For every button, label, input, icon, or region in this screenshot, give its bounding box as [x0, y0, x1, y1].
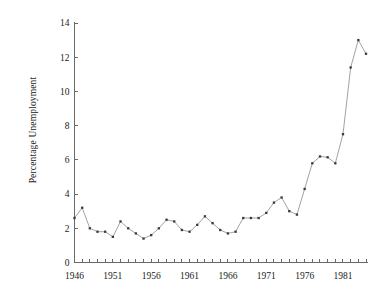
data-point-marker [158, 227, 160, 229]
data-point-marker [219, 229, 221, 231]
data-point-marker [173, 220, 175, 222]
y-tick-label: 12 [60, 53, 70, 63]
data-point-marker [150, 234, 152, 236]
series-line [75, 40, 367, 238]
data-series-group [73, 39, 367, 240]
data-point-marker [303, 188, 305, 190]
data-point-marker [104, 231, 106, 233]
data-point-marker [280, 196, 282, 198]
x-tick-label: 1956 [142, 271, 161, 281]
data-point-marker [334, 162, 336, 164]
x-tick-label: 1951 [103, 271, 122, 281]
data-point-marker [227, 232, 229, 234]
data-point-marker [119, 220, 121, 222]
data-point-marker [73, 217, 75, 219]
data-point-marker [265, 212, 267, 214]
data-point-marker [365, 53, 367, 55]
data-point-marker [326, 156, 328, 158]
y-tick-label: 10 [60, 87, 70, 97]
data-point-marker [350, 66, 352, 68]
data-point-marker [242, 217, 244, 219]
y-tick-label: 14 [60, 18, 70, 28]
data-point-marker [288, 210, 290, 212]
chart-plot-area: 02468101214 1946195119561961196619711976… [0, 0, 382, 293]
data-point-marker [165, 219, 167, 221]
data-point-marker [89, 227, 91, 229]
data-point-marker [188, 231, 190, 233]
y-axis: 02468101214 [60, 18, 78, 268]
data-point-marker [296, 213, 298, 215]
data-point-marker [211, 222, 213, 224]
data-point-marker [181, 229, 183, 231]
data-point-marker [142, 237, 144, 239]
data-point-marker [127, 227, 129, 229]
x-tick-label: 1966 [218, 271, 237, 281]
data-point-marker [135, 232, 137, 234]
x-tick-label: 1981 [333, 271, 352, 281]
y-tick-label: 6 [65, 155, 70, 165]
x-tick-label: 1946 [65, 271, 84, 281]
y-tick-label: 8 [65, 121, 70, 131]
data-point-marker [257, 217, 259, 219]
data-point-marker [204, 215, 206, 217]
data-point-marker [96, 231, 98, 233]
data-point-marker [342, 133, 344, 135]
data-point-marker [81, 207, 83, 209]
x-axis: 19461951195619611966197119761981 [65, 259, 368, 280]
x-tick-label: 1971 [257, 271, 276, 281]
data-point-marker [319, 155, 321, 157]
data-point-marker [112, 236, 114, 238]
y-tick-label: 2 [65, 224, 70, 234]
y-tick-label: 0 [65, 258, 70, 268]
x-tick-label: 1976 [295, 271, 314, 281]
data-point-marker [250, 217, 252, 219]
y-tick-label: 4 [65, 189, 70, 199]
unemployment-line-chart-figure: Percentage Unemployment 02468101214 1946… [0, 0, 382, 293]
data-point-marker [196, 224, 198, 226]
data-point-marker [357, 39, 359, 41]
data-point-marker [273, 201, 275, 203]
data-point-marker [311, 162, 313, 164]
x-tick-label: 1961 [180, 271, 199, 281]
data-point-marker [234, 231, 236, 233]
